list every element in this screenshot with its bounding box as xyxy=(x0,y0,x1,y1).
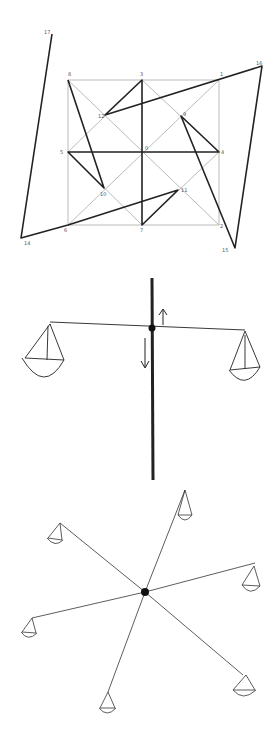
center-dot xyxy=(141,588,149,596)
label-inner-ur: 9 xyxy=(183,111,186,117)
label-grid-tm: 3 xyxy=(140,71,143,77)
label-inner-ul: 12 xyxy=(98,113,104,119)
figure-radial-balance xyxy=(21,490,260,713)
label-grid-ml: 5 xyxy=(60,149,63,155)
pivot-dot xyxy=(149,325,156,332)
label-grid-tr: 1 xyxy=(220,71,223,77)
right-pan xyxy=(229,331,260,380)
label-14: 14 xyxy=(24,240,30,246)
label-grid-br: 2 xyxy=(220,223,223,229)
arrow-down-icon xyxy=(141,338,149,368)
pan-upper-left xyxy=(47,523,63,544)
pan-left xyxy=(21,618,37,637)
pan-upper-right xyxy=(242,566,260,591)
arrow-up-icon xyxy=(159,309,167,325)
pan-bottom xyxy=(99,692,116,713)
label-inner-ll: 10 xyxy=(100,191,106,197)
figure-grid-diagram: 17 16 14 15 8 3 1 5 0 4 6 7 2 12 9 10 11 xyxy=(21,29,262,253)
drawing-canvas: 17 16 14 15 8 3 1 5 0 4 6 7 2 12 9 10 11 xyxy=(0,0,277,739)
pan-lower-right xyxy=(233,675,256,696)
pan-top xyxy=(178,490,192,520)
label-grid-bl: 6 xyxy=(64,227,67,233)
label-17: 17 xyxy=(44,29,50,35)
figure-balance-scale xyxy=(22,278,260,480)
label-grid-tl: 8 xyxy=(68,71,71,77)
label-15: 15 xyxy=(222,247,228,253)
label-grid-c: 0 xyxy=(145,145,148,151)
left-pan xyxy=(22,324,64,377)
label-16: 16 xyxy=(256,60,262,66)
label-grid-bm: 7 xyxy=(140,227,143,233)
label-grid-mr: 4 xyxy=(221,149,224,155)
label-inner-lr: 11 xyxy=(181,187,187,193)
